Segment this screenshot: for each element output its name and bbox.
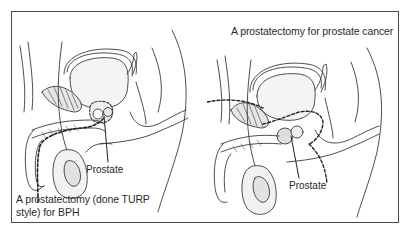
prostate-label-right: Prostate bbox=[289, 180, 326, 191]
panel-radical: A prostatectomy for prostate cancer bbox=[207, 12, 400, 222]
turp-caption: A prostatectomy (done TURP style) for BP… bbox=[16, 193, 166, 218]
radical-illustration bbox=[207, 12, 400, 224]
figure-frame: Prostate A prostatectomy (done TURP styl… bbox=[11, 11, 399, 223]
prostate-label-left: Prostate bbox=[86, 164, 123, 175]
panel-turp: Prostate A prostatectomy (done TURP styl… bbox=[12, 12, 207, 222]
